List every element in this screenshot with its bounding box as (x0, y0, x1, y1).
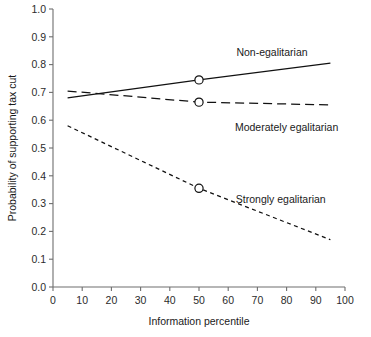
series-line-dotted (68, 126, 331, 240)
y-tick-label: 1.0 (31, 3, 46, 15)
y-tick-label: 0.0 (31, 281, 46, 293)
x-tick-label: 90 (310, 294, 322, 306)
y-tick-label: 0.6 (31, 114, 46, 126)
y-tick-label: 0.3 (31, 197, 46, 209)
x-tick-label: 50 (193, 294, 205, 306)
series-labels-group: Non-egalitarianModerately egalitarianStr… (235, 46, 338, 205)
x-tick-label: 100 (336, 294, 354, 306)
series-lines-group (68, 63, 331, 240)
y-tick-label: 0.9 (31, 31, 46, 43)
series-label: Non-egalitarian (236, 46, 307, 58)
x-tick-label: 40 (164, 294, 176, 306)
x-tick-label: 10 (76, 294, 88, 306)
x-tick-label: 30 (135, 294, 147, 306)
series-marker (195, 98, 203, 106)
x-axis-title: Information percentile (149, 315, 250, 327)
y-tick-label: 0.7 (31, 86, 46, 98)
x-tick-label: 0 (50, 294, 56, 306)
y-tick-label: 0.5 (31, 142, 46, 154)
series-markers-group (195, 76, 203, 193)
y-axis-ticks: 0.00.10.20.30.40.50.60.70.80.91.0 (31, 3, 53, 293)
x-tick-label: 60 (222, 294, 234, 306)
y-axis-title: Probability of supporting tax cut (6, 75, 18, 222)
y-tick-label: 0.2 (31, 225, 46, 237)
series-label: Moderately egalitarian (235, 121, 338, 133)
y-tick-label: 0.8 (31, 58, 46, 70)
chart-svg: 0.00.10.20.30.40.50.60.70.80.91.0 010203… (0, 0, 371, 337)
x-tick-label: 80 (281, 294, 293, 306)
x-tick-label: 70 (252, 294, 264, 306)
series-marker (195, 76, 203, 84)
series-marker (195, 184, 203, 192)
x-axis-ticks: 0102030405060708090100 (50, 287, 354, 306)
y-tick-label: 0.4 (31, 170, 46, 182)
series-label: Strongly egalitarian (236, 193, 326, 205)
x-tick-label: 20 (106, 294, 118, 306)
chart-figure: 0.00.10.20.30.40.50.60.70.80.91.0 010203… (0, 0, 371, 337)
y-tick-label: 0.1 (31, 253, 46, 265)
